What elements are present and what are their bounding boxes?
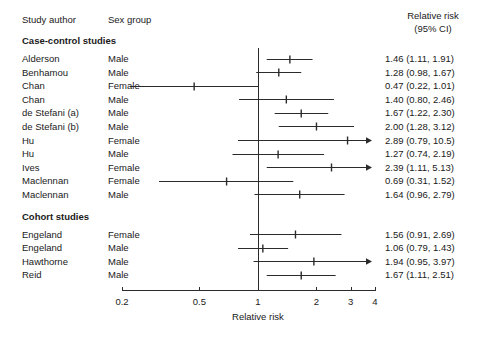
study-row-cohort-studies-2-estimate: 1.06 (0.79, 1.43) xyxy=(385,242,455,253)
group-header-2: Cohort studies xyxy=(22,211,89,222)
study-row-case-control-studies-2-sex: Male xyxy=(108,67,129,78)
study-row-case-control-studies-8-sex: Male xyxy=(108,148,129,159)
study-row-case-control-studies-1-author: Alderson xyxy=(22,53,60,64)
x-axis-tick-label-2: 2 xyxy=(314,296,319,307)
study-row-case-control-studies-6-sex: Male xyxy=(108,121,129,132)
column-header-confidence-interval: (95% CI) xyxy=(385,23,481,34)
study-row-case-control-studies-8-estimate: 1.27 (0.74, 2.19) xyxy=(385,148,455,159)
study-row-case-control-studies-5-estimate: 1.67 (1.22, 2.30) xyxy=(385,107,455,118)
study-row-cohort-studies-4-sex: Male xyxy=(108,269,129,280)
study-row-case-control-studies-1-estimate: 1.46 (1.11, 1.91) xyxy=(385,53,454,64)
x-axis-tick-label-0.2: 0.2 xyxy=(115,296,128,307)
study-row-case-control-studies-9-sex: Female xyxy=(108,162,140,173)
study-row-case-control-studies-8-author: Hu xyxy=(22,148,34,159)
study-row-cohort-studies-3-estimate: 1.94 (0.95, 3.97) xyxy=(385,256,455,267)
x-axis-tick-label-1: 1 xyxy=(255,296,260,307)
study-row-case-control-studies-1-sex: Male xyxy=(108,53,129,64)
study-row-cohort-studies-1-sex: Female xyxy=(108,229,140,240)
study-row-case-control-studies-11-sex: Male xyxy=(108,189,129,200)
x-axis-title: Relative risk xyxy=(232,311,284,322)
study-row-case-control-studies-3-estimate: 0.47 (0.22, 1.01) xyxy=(385,80,455,91)
study-row-case-control-studies-2-author: Benhamou xyxy=(22,67,68,78)
study-row-case-control-studies-5-sex: Male xyxy=(108,107,129,118)
study-row-case-control-studies-10-estimate: 0.69 (0.31, 1.52) xyxy=(385,175,455,186)
column-header-sex-group: Sex group xyxy=(108,14,151,25)
study-row-case-control-studies-6-author: de Stefani (b) xyxy=(22,121,79,132)
study-row-case-control-studies-9-author: Ives xyxy=(22,162,39,173)
x-axis-tick-label-3: 3 xyxy=(348,296,353,307)
study-row-case-control-studies-7-estimate: 2.89 (0.79, 10.5) xyxy=(385,135,455,146)
study-row-case-control-studies-2-estimate: 1.28 (0.98, 1.67) xyxy=(385,67,455,78)
column-header-relative-risk: Relative risk xyxy=(385,10,481,21)
study-row-case-control-studies-4-sex: Male xyxy=(108,94,129,105)
study-row-case-control-studies-7-ci-arrow-icon xyxy=(366,137,372,143)
study-row-case-control-studies-9-estimate: 2.39 (1.11, 5.13) xyxy=(385,162,454,173)
column-header-study-author: Study author xyxy=(22,14,76,25)
study-row-cohort-studies-4-estimate: 1.67 (1.11, 2.51) xyxy=(385,269,454,280)
study-row-cohort-studies-3-sex: Male xyxy=(108,256,129,267)
study-row-case-control-studies-9-ci-arrow-icon xyxy=(366,164,372,170)
study-row-cohort-studies-2-sex: Male xyxy=(108,242,129,253)
study-row-case-control-studies-3-author: Chan xyxy=(22,80,45,91)
group-header-1: Case-control studies xyxy=(22,35,116,46)
study-row-cohort-studies-3-author: Hawthorne xyxy=(22,256,68,267)
study-row-cohort-studies-1-estimate: 1.56 (0.91, 2.69) xyxy=(385,229,455,240)
study-row-case-control-studies-7-sex: Female xyxy=(108,135,140,146)
study-row-case-control-studies-4-author: Chan xyxy=(22,94,45,105)
study-row-cohort-studies-1-author: Engeland xyxy=(22,229,62,240)
x-axis-tick-label-0.5: 0.5 xyxy=(193,296,206,307)
study-row-case-control-studies-5-author: de Stefani (a) xyxy=(22,107,79,118)
forest-plot: Study author Sex group Relative risk (95… xyxy=(0,0,487,339)
study-row-case-control-studies-10-sex: Female xyxy=(108,175,140,186)
study-row-case-control-studies-3-sex: Female xyxy=(108,80,140,91)
study-row-case-control-studies-6-estimate: 2.00 (1.28, 3.12) xyxy=(385,121,455,132)
study-row-case-control-studies-4-estimate: 1.40 (0.80, 2.46) xyxy=(385,94,455,105)
study-row-cohort-studies-2-author: Engeland xyxy=(22,242,62,253)
study-row-case-control-studies-7-author: Hu xyxy=(22,135,34,146)
study-row-cohort-studies-4-author: Reid xyxy=(22,269,42,280)
x-axis-tick-label-4: 4 xyxy=(372,296,377,307)
study-row-case-control-studies-10-author: Maclennan xyxy=(22,175,68,186)
study-row-cohort-studies-3-ci-arrow-icon xyxy=(366,258,372,264)
study-row-case-control-studies-11-estimate: 1.64 (0.96, 2.79) xyxy=(385,189,455,200)
study-row-case-control-studies-11-author: Maclennan xyxy=(22,189,68,200)
